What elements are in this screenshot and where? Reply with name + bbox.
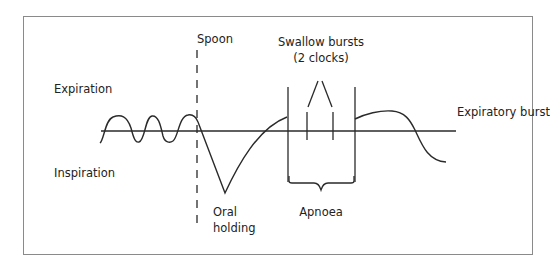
expiratory-burst-label: Expiratory burst — [457, 105, 550, 119]
oral-holding-sublabel: holding — [213, 221, 256, 235]
swallow-burst-pointer-2 — [322, 81, 332, 107]
expiratory-burst-waveform — [355, 111, 446, 162]
breathing-waveform — [100, 115, 198, 143]
swallow-bursts-label: Swallow bursts — [278, 35, 364, 49]
spoon-label: Spoon — [197, 32, 233, 46]
swallow-burst-pointer-1 — [308, 81, 318, 107]
swallow-bursts-sublabel: (2 clocks) — [293, 51, 348, 65]
apnoea-brace — [289, 176, 354, 190]
apnoea-label: Apnoea — [299, 205, 343, 219]
oral-holding-waveform — [198, 117, 287, 193]
oral-holding-label: Oral — [213, 205, 237, 219]
inspiration-label: Inspiration — [54, 166, 115, 180]
expiration-label: Expiration — [54, 82, 112, 96]
